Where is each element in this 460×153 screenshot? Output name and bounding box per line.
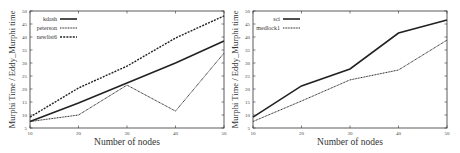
y-tick-label: 50 bbox=[22, 9, 28, 14]
y-tick-label: 30 bbox=[22, 61, 28, 66]
legend-label-newlist6: newlist6 bbox=[37, 34, 57, 40]
y-axis-label: Murphi Time / Eddy_Murphi time bbox=[7, 10, 17, 128]
chart-left-svg: 51015202530354045501020304050Number of n… bbox=[0, 0, 230, 153]
y-tick-label: 10 bbox=[22, 113, 28, 118]
chart-right-svg: 51015202530354045501020304050Number of n… bbox=[230, 0, 460, 153]
y-tick-label: 45 bbox=[245, 22, 251, 27]
x-tick-label: 30 bbox=[125, 131, 131, 136]
y-tick-label: 20 bbox=[245, 87, 251, 92]
x-tick-label: 20 bbox=[299, 131, 305, 136]
series-line-kdash bbox=[30, 41, 224, 122]
x-tick-label: 30 bbox=[348, 131, 354, 136]
chart-left: 51015202530354045501020304050Number of n… bbox=[0, 0, 230, 153]
y-tick-label: 40 bbox=[245, 35, 251, 40]
x-axis-label: Number of nodes bbox=[94, 137, 160, 147]
chart-right: 51015202530354045501020304050Number of n… bbox=[230, 0, 460, 153]
series-line-newlist6 bbox=[30, 16, 224, 117]
y-tick-label: 25 bbox=[22, 74, 28, 79]
y-tick-label: 10 bbox=[245, 113, 251, 118]
y-tick-label: 50 bbox=[245, 9, 251, 14]
x-axis-label: Number of nodes bbox=[317, 137, 383, 147]
series-line-sci bbox=[253, 20, 447, 117]
x-tick-label: 10 bbox=[28, 131, 34, 136]
x-tick-label: 50 bbox=[445, 131, 451, 136]
x-tick-label: 10 bbox=[251, 131, 257, 136]
legend-label-sci: sci bbox=[273, 16, 280, 22]
x-tick-label: 40 bbox=[396, 131, 402, 136]
y-tick-label: 15 bbox=[22, 100, 28, 105]
y-tick-label: 20 bbox=[22, 87, 28, 92]
y-tick-label: 45 bbox=[22, 22, 28, 27]
x-tick-label: 40 bbox=[173, 131, 179, 136]
y-axis-label: Murphi Time / Eddy_Murphi time bbox=[230, 10, 240, 128]
legend-label-peterson: peterson bbox=[37, 25, 57, 31]
series-line-medlock1 bbox=[253, 40, 447, 121]
y-tick-label: 15 bbox=[245, 100, 251, 105]
x-tick-label: 50 bbox=[222, 131, 228, 136]
y-tick-label: 30 bbox=[245, 61, 251, 66]
y-tick-label: 35 bbox=[22, 48, 28, 53]
x-tick-label: 20 bbox=[76, 131, 82, 136]
legend-label-kdash: kdash bbox=[43, 16, 57, 22]
y-tick-label: 40 bbox=[22, 35, 28, 40]
legend-label-medlock1: medlock1 bbox=[256, 25, 280, 31]
y-tick-label: 35 bbox=[245, 48, 251, 53]
y-tick-label: 25 bbox=[245, 74, 251, 79]
